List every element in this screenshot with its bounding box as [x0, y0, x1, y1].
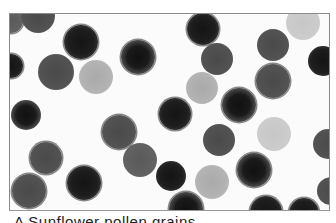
- pollen-grain: [67, 166, 101, 200]
- pollen-grain: [317, 177, 330, 205]
- pollen-grain: [187, 13, 219, 45]
- pollen-grain: [257, 117, 291, 151]
- pollen-grain: [203, 124, 235, 156]
- pollen-grain: [308, 46, 330, 76]
- pollen-grain: [195, 165, 229, 199]
- pollen-grain: [38, 54, 74, 90]
- pollen-grain: [30, 142, 62, 174]
- pollen-grain: [256, 64, 290, 98]
- pollen-grain: [169, 192, 203, 211]
- pollen-grain: [237, 153, 271, 187]
- pollen-grain: [156, 161, 186, 191]
- pollen-grain: [123, 143, 157, 177]
- pollen-grain: [102, 115, 136, 149]
- pollen-grain: [9, 54, 23, 78]
- pollen-grain: [121, 40, 155, 74]
- pollen-grain: [250, 196, 282, 211]
- pollen-grain: [64, 25, 98, 59]
- pollen-grain: [186, 72, 218, 104]
- pollen-grain: [222, 88, 256, 122]
- pollen-micrograph: [9, 13, 330, 211]
- pollen-grain: [159, 98, 191, 130]
- figure-caption: A Sunflower pollen grains: [14, 213, 196, 223]
- pollen-grain: [289, 198, 319, 211]
- pollen-grain: [21, 13, 55, 33]
- pollen-grain: [257, 29, 289, 61]
- pollen-grain: [12, 174, 46, 208]
- pollen-grain: [79, 60, 113, 94]
- pollen-grain: [286, 13, 320, 40]
- pollen-grain: [11, 100, 41, 130]
- pollen-grain: [201, 43, 233, 75]
- pollen-grain: [313, 129, 330, 159]
